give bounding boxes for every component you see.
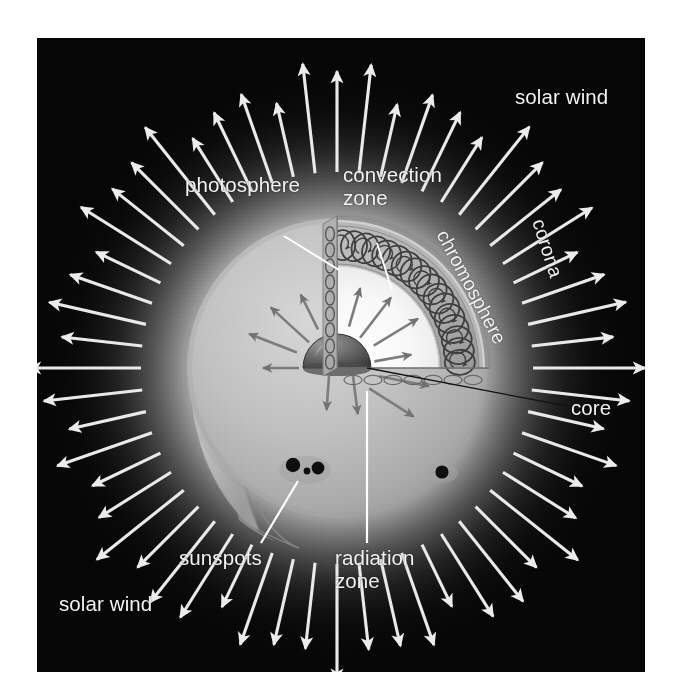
sunspot-umbra — [435, 465, 448, 478]
figure-root: solar wind solar wind photosphere convec… — [0, 0, 679, 694]
label-solar-wind-top: solar wind — [515, 85, 608, 108]
illustration-panel: solar wind solar wind photosphere convec… — [37, 38, 645, 672]
label-radiation-zone-line1: radiation — [335, 546, 415, 569]
label-sunspots: sunspots — [179, 546, 262, 569]
label-convection-zone-line1: convection — [343, 163, 442, 186]
label-photosphere: photosphere — [185, 173, 300, 196]
label-solar-wind-bottom: solar wind — [59, 592, 152, 615]
label-convection-zone-line2: zone — [343, 186, 388, 209]
sunspot-umbra — [304, 468, 311, 475]
label-core: core — [571, 396, 611, 419]
sunspot-group-right — [426, 463, 458, 483]
sunspot-umbra — [286, 458, 300, 472]
sunspot-umbra — [312, 462, 325, 475]
label-radiation-zone-line2: zone — [335, 569, 380, 592]
wedge-left-wall — [323, 216, 337, 376]
sunspot-group-left — [279, 456, 331, 484]
